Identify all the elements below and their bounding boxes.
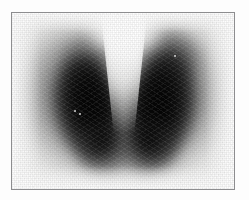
scintigram-page <box>0 0 249 200</box>
photopenic-superior-midline <box>90 13 160 47</box>
scan-image-frame[interactable] <box>11 12 235 190</box>
scintigram-canvas <box>12 13 234 189</box>
